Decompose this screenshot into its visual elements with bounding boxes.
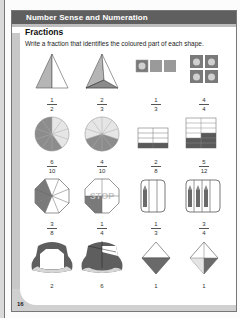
diamond-half-icon — [132, 238, 180, 278]
four-apples-icon — [180, 52, 228, 92]
page-spine — [12, 33, 20, 311]
fraction-label: 34 — [180, 221, 228, 236]
lesson-title: Fractions — [25, 27, 63, 37]
fraction-row: 610 410 28 — [28, 114, 228, 176]
diamond-quarter-icon — [180, 238, 228, 278]
fraction-row: 38 STOP 14 13 — [28, 176, 228, 238]
fraction-label: 14 — [78, 221, 126, 236]
page-number: 16 — [17, 301, 24, 307]
pencil-box-icon — [132, 176, 180, 216]
fraction-label: 512 — [180, 159, 228, 174]
fraction-grid: 12 23 13 — [28, 52, 228, 300]
fraction-row: 12 23 13 — [28, 52, 228, 114]
fraction-label: 13 — [132, 97, 180, 112]
pyramid-half-icon — [28, 52, 76, 92]
fraction-label: 610 — [28, 159, 76, 174]
section-header: Number Sense and Numeration — [12, 11, 236, 24]
stop-sign-icon: STOP — [78, 176, 126, 216]
cake-ring-icon — [28, 238, 76, 278]
stop-sign-icon — [28, 176, 76, 216]
left-page-edge — [0, 0, 5, 318]
fraction-label: 410 — [78, 159, 126, 174]
pencil-box-icon — [180, 176, 228, 216]
grid-eight-icon — [132, 114, 180, 154]
fraction-label: 13 — [132, 221, 180, 236]
worksheet-page: Number Sense and Numeration Fractions Wr… — [11, 10, 237, 312]
instruction-text: Write a fraction that identifies the col… — [25, 40, 204, 47]
pizza-icon — [28, 114, 76, 154]
fraction-label: 44 — [180, 97, 228, 112]
fraction-label: 28 — [132, 159, 180, 174]
fraction-label: 38 — [28, 221, 76, 236]
cake-icon — [78, 238, 126, 278]
fraction-label: 23 — [78, 97, 126, 112]
page-footer: 16 — [12, 289, 236, 311]
pyramid-thirds-icon — [78, 52, 126, 92]
grid-twelve-icon — [180, 114, 228, 154]
pizza-icon — [78, 114, 126, 154]
fraction-label: 12 — [28, 97, 76, 112]
three-squares-icon — [132, 52, 180, 92]
